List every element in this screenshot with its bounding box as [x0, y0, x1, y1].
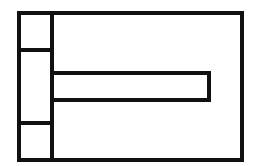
- horizontal-bar: [52, 73, 209, 100]
- diagram-canvas: [0, 0, 264, 166]
